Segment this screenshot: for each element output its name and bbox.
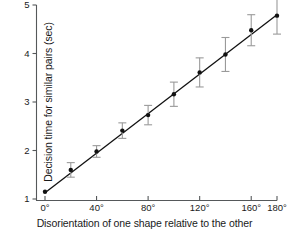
y-axis-title: Decision time for similar pairs (sec) <box>42 2 54 202</box>
y-tick-label: 3 <box>24 96 29 107</box>
data-point <box>69 168 73 172</box>
data-point <box>275 13 279 17</box>
y-tick-label: 2 <box>24 145 29 156</box>
data-point <box>146 113 150 117</box>
data-point <box>197 70 201 74</box>
data-point <box>249 28 253 32</box>
x-tick-label: 160° <box>241 202 261 213</box>
x-tick-label: 80° <box>141 202 156 213</box>
y-tick-label: 1 <box>24 193 29 204</box>
y-tick-label: 4 <box>24 48 29 59</box>
chart-figure: 12345 0°40°80°120°160°180° Decision time… <box>0 0 289 234</box>
x-axis-title: Disorientation of one shape relative to … <box>0 217 289 229</box>
data-point <box>223 52 227 56</box>
x-tick-label: 40° <box>89 202 104 213</box>
x-tick-label: 180° <box>267 202 287 213</box>
data-point <box>172 92 176 96</box>
data-point <box>94 149 98 153</box>
data-point <box>120 128 124 132</box>
x-tick-label: 0° <box>40 202 49 213</box>
x-tick-label: 120° <box>190 202 210 213</box>
y-tick-label: 5 <box>24 0 29 10</box>
